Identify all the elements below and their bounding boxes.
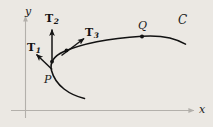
curve-label-C: C (178, 14, 187, 26)
vector-label-T1-subscript: 1 (36, 46, 41, 55)
axes-group (11, 16, 194, 118)
vector-label-T1-base: T (27, 41, 35, 54)
vector-label-T2-base: T (45, 12, 53, 25)
vector-label-T3: T3 (85, 27, 99, 39)
vector-label-T3-subscript: 3 (94, 31, 99, 40)
point-T3-base-dot (65, 49, 69, 53)
vector-label-T2-subscript: 2 (54, 17, 59, 26)
y-axis-label: y (25, 6, 31, 17)
vector-label-T2: T2 (45, 13, 59, 25)
vector-label-T3-base: T (85, 26, 93, 39)
vector-label-T1: T1 (27, 42, 41, 54)
vector-T1-arrow (37, 55, 53, 70)
x-axis-label: x (199, 104, 205, 115)
vector-T3-arrow (62, 39, 85, 56)
point-P-dot (50, 60, 54, 64)
tangent-vector-figure: y x P Q C T1 T2 T3 (0, 0, 213, 127)
tangent-vectors-group (37, 30, 85, 70)
point-Q-dot (140, 34, 144, 38)
curve-C (51, 36, 185, 99)
point-label-P: P (44, 74, 51, 85)
point-label-Q: Q (138, 20, 147, 31)
curve-C-path (51, 36, 185, 99)
